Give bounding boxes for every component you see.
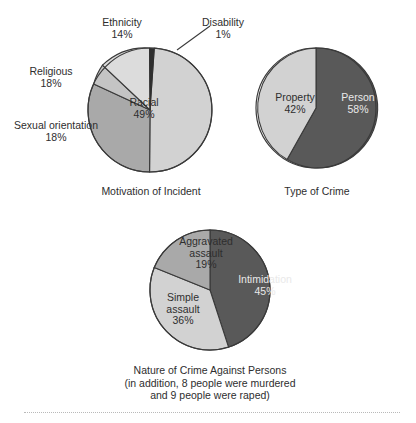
chart-caption-type-of-crime: Type of Crime bbox=[254, 185, 380, 198]
chart-caption-nature-line2: (in addition, 8 people were murdered bbox=[98, 377, 322, 390]
slice-label-racial-name: Racial bbox=[129, 96, 158, 108]
slice-label-religious-name: Religious bbox=[29, 65, 72, 77]
chart-caption-motivation-of-incident: Motivation of Incident bbox=[86, 185, 216, 198]
slice-label-property-name: Property bbox=[275, 91, 315, 103]
hate-crime-pie-chart-figure: Racial 49% Disability 1% Ethnicity 14% R… bbox=[0, 0, 416, 423]
chart-caption-nature-line1: Nature of Crime Against Persons bbox=[98, 364, 322, 377]
slice-label-intimidation: Intimidation 45% bbox=[225, 274, 305, 297]
slice-label-intimidation-name: Intimidation bbox=[238, 273, 292, 285]
slice-label-aggravated-assault-name1: Aggravated bbox=[179, 235, 233, 247]
slice-label-simple-assault-pct: 36% bbox=[151, 315, 215, 327]
slice-label-ethnicity-name: Ethnicity bbox=[102, 16, 142, 28]
slice-label-religious: Religious 18% bbox=[18, 66, 84, 89]
slice-label-simple-assault-name1: Simple bbox=[167, 291, 199, 303]
slice-label-aggravated-assault-pct: 19% bbox=[164, 259, 248, 271]
slice-label-aggravated-assault: Aggravated assault 19% bbox=[164, 236, 248, 271]
slice-label-sexual-orientation: Sexual orientation 18% bbox=[2, 120, 110, 143]
chart-caption-nature-of-crime: Nature of Crime Against Persons (in addi… bbox=[98, 364, 322, 402]
slice-label-person-pct: 58% bbox=[327, 104, 389, 116]
slice-label-simple-assault: Simple assault 36% bbox=[151, 292, 215, 327]
slice-label-property: Property 42% bbox=[262, 92, 328, 115]
slice-label-sexual-orientation-name: Sexual orientation bbox=[14, 119, 98, 131]
slice-label-ethnicity-pct: 14% bbox=[88, 29, 156, 41]
slice-label-racial: Racial 49% bbox=[116, 97, 172, 120]
chart-caption-nature-line3: and 9 people were raped) bbox=[98, 389, 322, 402]
slice-label-intimidation-pct: 45% bbox=[225, 286, 305, 298]
slice-label-person: Person 58% bbox=[327, 92, 389, 115]
slice-label-disability: Disability 1% bbox=[187, 17, 259, 40]
slice-label-sexual-orientation-pct: 18% bbox=[2, 132, 110, 144]
slice-label-property-pct: 42% bbox=[262, 104, 328, 116]
bottom-dotted-divider bbox=[24, 412, 400, 413]
slice-label-disability-pct: 1% bbox=[187, 29, 259, 41]
slice-label-person-name: Person bbox=[341, 91, 374, 103]
slice-label-religious-pct: 18% bbox=[18, 78, 84, 90]
slice-label-disability-name: Disability bbox=[202, 16, 244, 28]
slice-label-ethnicity: Ethnicity 14% bbox=[88, 17, 156, 40]
slice-label-racial-pct: 49% bbox=[116, 109, 172, 121]
